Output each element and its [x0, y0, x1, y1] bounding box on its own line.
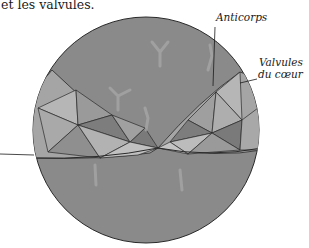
left-leader-line	[0, 154, 34, 155]
label-anticorps: Anticorps	[216, 11, 267, 23]
antibody-icon	[95, 165, 96, 185]
label-valvules-line1: Valvules	[258, 56, 303, 68]
label-valvules-line2: du cœur	[258, 68, 303, 80]
label-valvules: Valvules du cœur	[258, 56, 303, 80]
antibody-icon	[180, 170, 182, 190]
heart-valve-diagram	[0, 0, 309, 248]
